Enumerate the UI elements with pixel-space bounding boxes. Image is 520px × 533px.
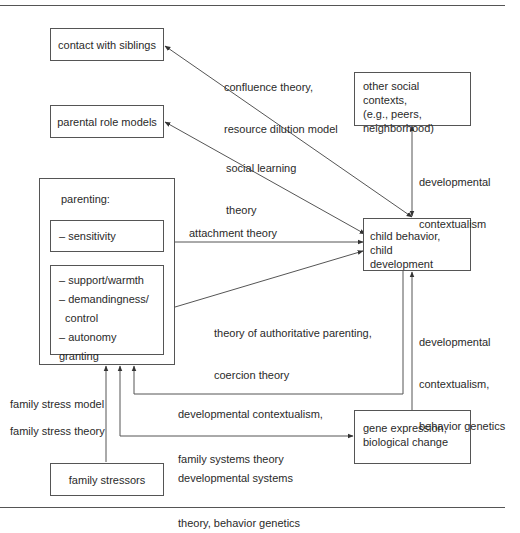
edge-label-line: theory [226, 203, 296, 217]
item-autonomy-granting: – autonomy granting [59, 328, 155, 366]
node-label-line: development [370, 257, 464, 271]
node-label: contact with siblings [58, 38, 156, 52]
node-sensitivity: – sensitivity [50, 220, 164, 252]
node-label-line: (e.g., peers, [363, 107, 462, 121]
edge-label-line: developmental systems [178, 471, 300, 485]
edge-label-line: behavior genetics [419, 419, 505, 433]
edge-label-line: developmental [419, 175, 491, 189]
node-family-stressors: family stressors [50, 463, 164, 496]
edge-label-dev-systems: developmental systems theory, behavior g… [178, 443, 300, 533]
edge-label-social-learning: social learning theory [226, 133, 296, 231]
node-parental-role-models: parental role models [50, 105, 164, 138]
edge-label-line: theory of authoritative parenting, [214, 326, 372, 340]
item-support-warmth: – support/warmth [59, 271, 155, 290]
node-label: family stressors [69, 473, 145, 487]
edge-label-line: developmental contextualism, [178, 407, 323, 421]
item-demandingness: – demandingness/ [59, 290, 155, 309]
edge-label-line: social learning [226, 161, 296, 175]
node-label-line: other social contexts, [363, 79, 462, 107]
item-control: control [59, 309, 155, 328]
node-parenting-dimensions: – support/warmth – demandingness/ contro… [50, 265, 164, 355]
edge-label-line: contextualism [419, 217, 491, 231]
node-label-line: neighborhood) [363, 121, 462, 135]
edge-label-line: contextualism, [419, 377, 505, 391]
parenting-title: parenting: [61, 192, 110, 206]
edge-label-line: developmental [419, 335, 505, 349]
edge-label-line: confluence theory, [224, 80, 338, 94]
edge-label-family-stress-model: family stress model [10, 397, 104, 411]
node-label: parental role models [57, 115, 157, 129]
edge-label-family-stress-theory: family stress theory [10, 424, 105, 438]
edge-label-dev-contextualism-gene: developmental contextualism, behavior ge… [419, 307, 505, 447]
edge-label-attachment: attachment theory [189, 226, 277, 240]
node-contact-with-siblings: contact with siblings [50, 28, 164, 61]
edge-label-dev-contextualism-top: developmental contextualism [419, 147, 491, 245]
node-label: – sensitivity [59, 229, 116, 243]
edge-label-line: theory, behavior genetics [178, 516, 300, 530]
node-other-social-contexts: other social contexts, (e.g., peers, nei… [354, 72, 471, 126]
